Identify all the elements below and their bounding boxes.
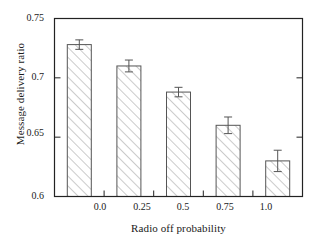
x-tick-label-2: 0.5 — [163, 202, 203, 212]
y-tick-label-075: 0.75 — [10, 13, 44, 23]
x-tick-label-3: 0.75 — [205, 202, 245, 212]
y-tick-label-06: 0.6 — [10, 191, 44, 201]
x-tick-label-0: 0.0 — [80, 202, 120, 212]
x-axis-title: Radio off probability — [54, 222, 303, 234]
y-axis-title: Message delivery ratio — [14, 4, 26, 184]
bar-fill — [117, 66, 141, 197]
x-tick-label-1: 0.25 — [122, 202, 162, 212]
chart-figure: Message delivery ratio Radio off probabi… — [0, 0, 323, 244]
bar-fill — [67, 45, 91, 197]
bar-fill — [216, 125, 240, 196]
bars-layer — [67, 45, 289, 197]
y-tick-label-07: 0.7 — [10, 72, 44, 82]
x-tick-label-4: 1.0 — [246, 202, 286, 212]
bar-fill — [167, 92, 191, 196]
y-tick-label-065: 0.65 — [10, 128, 44, 138]
